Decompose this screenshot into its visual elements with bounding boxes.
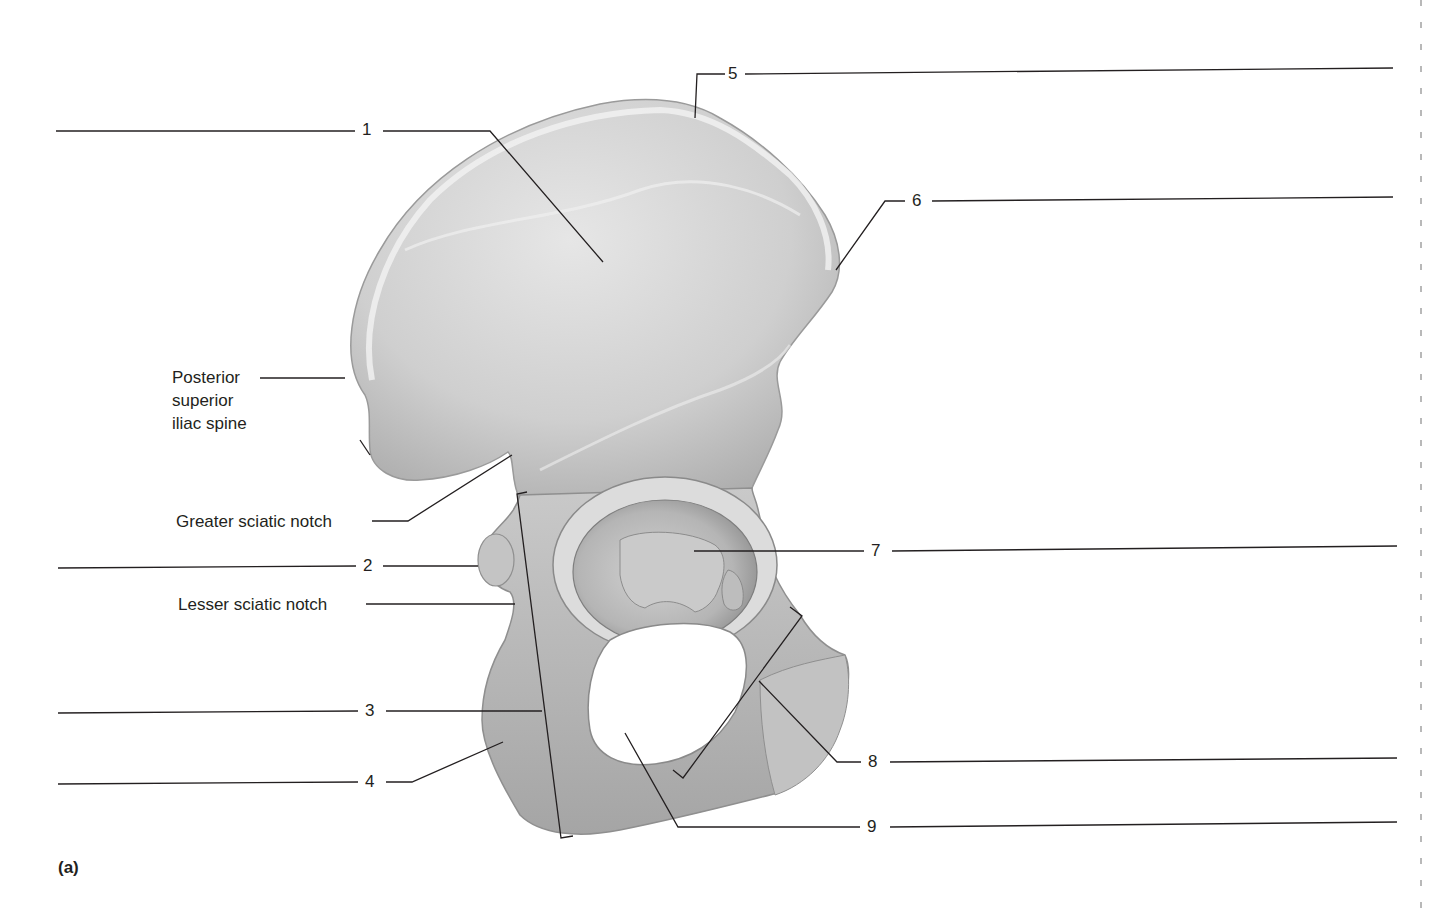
pubic-body [760, 655, 849, 795]
label-line: iliac spine [172, 412, 247, 435]
callout-6: 6 [909, 191, 924, 211]
page-edge-dashes [1420, 0, 1422, 909]
callout-9: 9 [864, 817, 879, 837]
leader-6 [932, 197, 1393, 201]
leader-7-blank [892, 546, 1397, 551]
panel-label: (a) [58, 858, 79, 878]
lunate-surface [620, 532, 724, 612]
callout-8: 8 [865, 752, 880, 772]
leader-9-blank [890, 822, 1397, 827]
callout-1: 1 [359, 120, 374, 140]
label-line: Posterior [172, 366, 247, 389]
callout-5: 5 [725, 64, 740, 84]
callout-7: 7 [868, 541, 883, 561]
label-posterior-superior-iliac-spine: Posterior superior iliac spine [172, 366, 247, 435]
leader-4-blank [58, 782, 358, 784]
label-lesser-sciatic-notch: Lesser sciatic notch [178, 593, 327, 616]
bracket-iliac-crest [360, 440, 370, 455]
callout-2: 2 [360, 556, 375, 576]
ilium [351, 100, 840, 500]
hip-bone-illustration [351, 100, 849, 834]
label-line: superior [172, 389, 247, 412]
leader-3-blank [58, 711, 358, 713]
leader-6-left [836, 201, 905, 270]
ischial-spine [478, 534, 514, 586]
hip-bone-diagram [0, 0, 1454, 909]
leader-4 [386, 742, 503, 782]
label-greater-sciatic-notch: Greater sciatic notch [176, 510, 332, 533]
callout-4: 4 [362, 772, 377, 792]
leader-8-blank [890, 758, 1397, 762]
leader-2-blank [58, 566, 356, 568]
leader-5 [745, 68, 1393, 74]
callout-3: 3 [362, 701, 377, 721]
